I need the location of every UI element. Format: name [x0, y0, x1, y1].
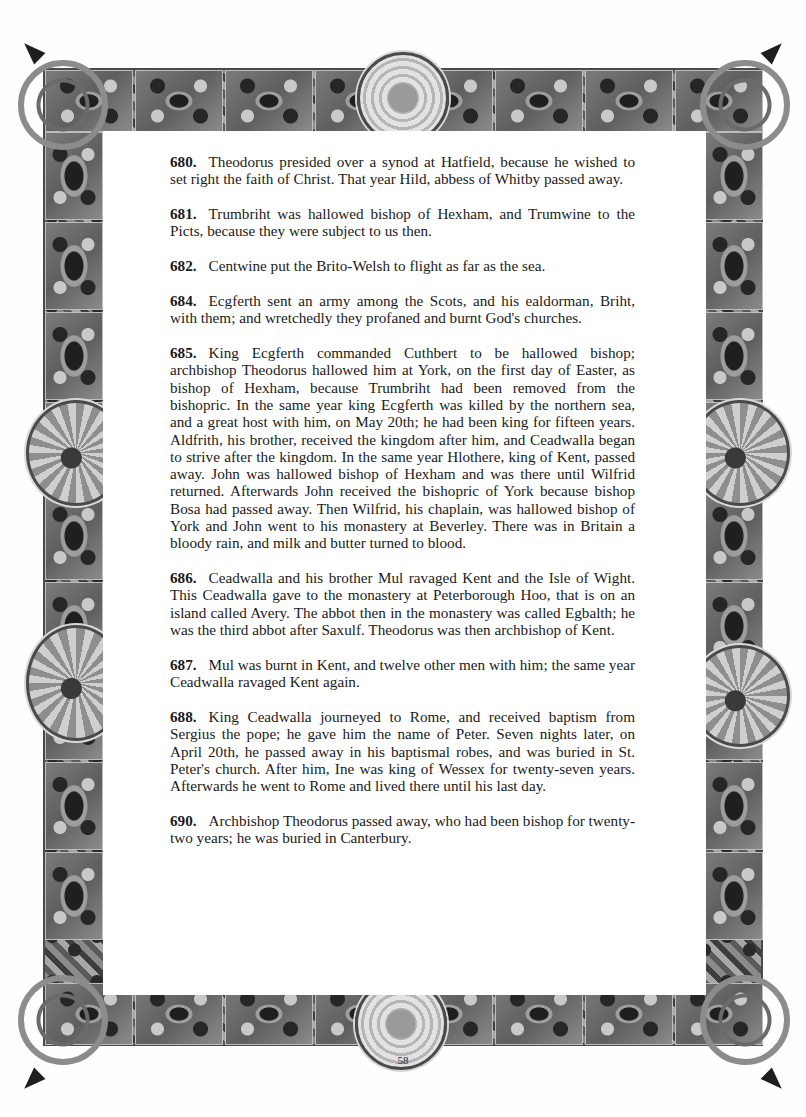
chronicle-entry: 681.Trumbriht was hallowed bishop of Hex… — [170, 205, 635, 240]
entry-text: Ecgferth sent an army among the Scots, a… — [170, 292, 635, 326]
entry-text: King Ceadwalla journeyed to Rome, and re… — [170, 708, 635, 794]
corner-flourish-bottom-left — [18, 975, 108, 1065]
corner-flourish-bottom-right — [700, 975, 790, 1065]
entry-year: 685. — [170, 344, 197, 361]
chronicle-entry: 684.Ecgferth sent an army among the Scot… — [170, 292, 635, 327]
entry-text: King Ecgferth commanded Cuthbert to be h… — [170, 344, 635, 551]
entry-year: 682. — [170, 257, 197, 274]
entry-text: Theodorus presided over a synod at Hatfi… — [170, 153, 635, 187]
chronicle-entry: 686.Ceadwalla and his brother Mul ravage… — [170, 569, 635, 638]
corner-flourish-top-right — [700, 60, 790, 150]
spike-icon — [19, 38, 46, 65]
entry-year: 687. — [170, 656, 197, 673]
border-left-tiles — [45, 132, 103, 942]
entry-text: Archbishop Theodorus passed away, who ha… — [170, 812, 635, 846]
entry-year: 690. — [170, 812, 197, 829]
border-right-tiles — [705, 132, 763, 942]
chronicle-entry: 682.Centwine put the Brito-Welsh to flig… — [170, 257, 635, 274]
entry-year: 688. — [170, 708, 197, 725]
knotwork-tile — [705, 852, 763, 940]
entry-text: Trumbriht was hallowed bishop of Hexham,… — [170, 205, 635, 239]
knotwork-tile — [705, 762, 763, 850]
entry-text: Mul was burnt in Kent, and twelve other … — [170, 656, 635, 690]
chronicle-entry: 685.King Ecgferth commanded Cuthbert to … — [170, 344, 635, 552]
spike-icon — [761, 38, 788, 65]
knotwork-tile — [585, 70, 673, 132]
knotwork-tile — [225, 70, 313, 132]
knotwork-tile — [705, 222, 763, 310]
knotwork-tile — [495, 70, 583, 132]
knotwork-tile — [45, 222, 103, 310]
chronicle-entry: 690.Archbishop Theodorus passed away, wh… — [170, 812, 635, 847]
knotwork-tile — [705, 312, 763, 400]
chronicle-entry: 680.Theodorus presided over a synod at H… — [170, 153, 635, 188]
spike-icon — [19, 1068, 46, 1095]
book-page: 680.Theodorus presided over a synod at H… — [0, 0, 806, 1117]
knotwork-tile — [45, 312, 103, 400]
corner-flourish-top-left — [18, 60, 108, 150]
chronicle-entry: 687.Mul was burnt in Kent, and twelve ot… — [170, 656, 635, 691]
page-number: 58 — [0, 1054, 806, 1066]
entry-text: Ceadwalla and his brother Mul ravaged Ke… — [170, 569, 635, 638]
entry-year: 684. — [170, 292, 197, 309]
entry-year: 681. — [170, 205, 197, 222]
entry-year: 686. — [170, 569, 197, 586]
knotwork-tile — [135, 70, 223, 132]
knotwork-tile — [45, 762, 103, 850]
entry-year: 680. — [170, 153, 197, 170]
spike-icon — [761, 1068, 788, 1095]
knotwork-tile — [45, 852, 103, 940]
entry-text: Centwine put the Brito-Welsh to flight a… — [209, 257, 546, 274]
chronicle-entry: 688.King Ceadwalla journeyed to Rome, an… — [170, 708, 635, 794]
chronicle-text: 680.Theodorus presided over a synod at H… — [170, 153, 635, 864]
